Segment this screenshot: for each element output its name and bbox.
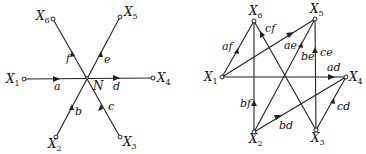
node-x1 (220, 75, 224, 79)
edge-label-be: be (301, 50, 315, 63)
edge-label-ce: ce (320, 46, 333, 59)
node-x3 (118, 135, 122, 139)
label-x3: X3 (310, 131, 325, 147)
label-x6: X6 (35, 9, 50, 25)
edge-label-ae: ae (284, 39, 298, 52)
arrow-cd-icon (330, 98, 335, 104)
arrow-bf-icon (251, 100, 257, 106)
label-x2: X2 (47, 137, 62, 153)
arrow-ae-icon (286, 32, 294, 38)
label-x1: X1 (5, 72, 20, 88)
node-x6 (252, 19, 256, 23)
edge-label-e: e (104, 53, 111, 66)
label-x5: X5 (123, 5, 138, 21)
arrow-e-icon (98, 51, 103, 57)
edge-label-ad: ad (327, 61, 341, 74)
edge-label-f: f (65, 52, 72, 65)
label-n: N (92, 79, 104, 93)
label-x1: X1 (203, 70, 218, 86)
node-x4 (151, 76, 155, 80)
label-x4: X4 (348, 70, 363, 86)
edge-label-d: d (113, 80, 120, 93)
label-x6: X6 (248, 4, 263, 20)
node-x4 (344, 75, 348, 79)
label-x4: X4 (156, 71, 171, 87)
bipartite-network-diagram: X1 X4 X6 X5 X2 X3 ad ae af bd be bf cd c… (203, 2, 363, 148)
label-x3: X3 (122, 135, 137, 151)
node-n (86, 77, 89, 80)
edge-label-bf: bf (240, 97, 253, 110)
edge-bd (254, 77, 346, 132)
arrow-ad-icon (328, 74, 335, 80)
label-x2: X2 (248, 132, 263, 148)
edge-label-cd: cd (337, 100, 350, 113)
node-x5 (313, 17, 317, 21)
label-x5: X5 (309, 2, 324, 18)
edge-label-a: a (54, 80, 61, 93)
node-x5 (118, 15, 122, 19)
edge-ce (315, 19, 316, 130)
star-network-diagram: X1 X4 X6 X5 X2 X3 N a b c d e f (5, 5, 171, 153)
node-x6 (51, 17, 55, 21)
diagram-canvas: X1 X4 X6 X5 X2 X3 N a b c d e f (0, 0, 366, 154)
edge-label-c: c (108, 100, 114, 113)
edge-label-cf: cf (265, 22, 277, 35)
edge-label-bd: bd (279, 119, 293, 132)
edge-label-af: af (222, 40, 235, 53)
node-x1 (22, 77, 26, 81)
arrow-f-icon (70, 51, 75, 57)
edge-label-b: b (75, 105, 82, 118)
